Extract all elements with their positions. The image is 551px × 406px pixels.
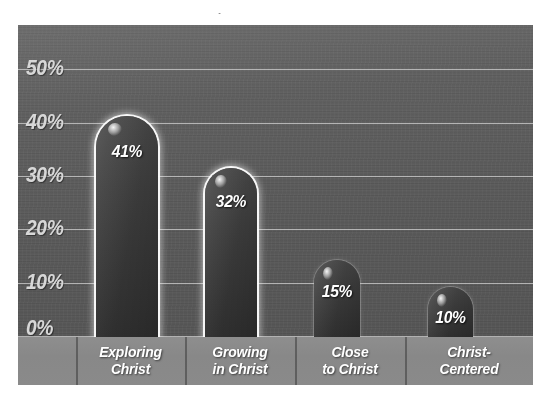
- bar-close-to-christ[interactable]: 15%: [314, 260, 360, 337]
- bar-highlight-specular: [323, 267, 333, 280]
- gridline-40: [18, 123, 533, 124]
- category-divider-3: [295, 337, 297, 385]
- ytick-label-30: 30%: [26, 164, 63, 186]
- category-label-line-2: to Christ: [299, 360, 401, 377]
- category-label-line-2: in Christ: [189, 360, 291, 377]
- category-label-line-1: Close: [299, 343, 401, 360]
- bar-christ-centered[interactable]: 10%: [428, 287, 473, 337]
- chart-page: Spiritual Continuum 50% 40% 30% 20% 10% …: [0, 0, 551, 406]
- category-label-christ-centered: Christ- Centered: [409, 343, 528, 377]
- bar-exploring-christ[interactable]: 41%: [96, 116, 158, 337]
- ytick-label-20: 20%: [26, 217, 63, 239]
- category-label-line-1: Christ-: [409, 343, 528, 360]
- bar-value-label: 10%: [430, 308, 471, 328]
- category-label-growing-in-christ: Growing in Christ: [189, 343, 291, 377]
- category-label-line-1: Growing: [189, 343, 291, 360]
- gridline-50: [18, 69, 533, 70]
- bar-highlight-specular: [437, 294, 447, 307]
- ytick-label-50: 50%: [26, 57, 63, 79]
- ytick-label-40: 40%: [26, 111, 63, 133]
- category-divider-2: [185, 337, 187, 385]
- bar-value-label: 15%: [316, 282, 358, 302]
- bar-highlight-specular: [108, 123, 122, 136]
- bar-highlight-specular: [215, 175, 226, 188]
- chart-panel: 50% 40% 30% 20% 10% 0% 41% 32% 15% 10%: [18, 25, 533, 385]
- category-label-line-1: Exploring: [80, 343, 181, 360]
- bar-growing-in-christ[interactable]: 32%: [205, 168, 257, 337]
- category-label-line-2: Centered: [409, 360, 528, 377]
- ytick-label-0: 0%: [26, 317, 53, 339]
- category-divider-4: [405, 337, 407, 385]
- ytick-label-10: 10%: [26, 271, 63, 293]
- bar-value-label: 41%: [98, 142, 155, 162]
- category-label-exploring-christ: Exploring Christ: [80, 343, 181, 377]
- category-divider-1: [76, 337, 78, 385]
- bar-value-label: 32%: [207, 192, 255, 212]
- plot-area: 50% 40% 30% 20% 10% 0% 41% 32% 15% 10%: [18, 25, 533, 337]
- category-label-close-to-christ: Close to Christ: [299, 343, 401, 377]
- category-label-line-2: Christ: [80, 360, 181, 377]
- cropped-title-remnant: Spiritual Continuum: [0, 0, 551, 14]
